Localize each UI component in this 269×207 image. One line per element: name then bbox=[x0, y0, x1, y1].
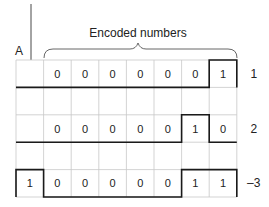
bit-cell: 0 bbox=[54, 123, 60, 135]
bit-cell: 0 bbox=[137, 177, 143, 189]
decoded-value: 1 bbox=[250, 67, 257, 81]
bit-cell: 0 bbox=[165, 177, 171, 189]
bit-cell: 1 bbox=[192, 123, 198, 135]
brace-label: Encoded numbers bbox=[89, 26, 186, 40]
bit-cell: 0 bbox=[137, 123, 143, 135]
bit-cell: 0 bbox=[220, 123, 226, 135]
bit-cell: 0 bbox=[192, 68, 198, 80]
bit-cell: 0 bbox=[54, 177, 60, 189]
bit-cell: 0 bbox=[165, 68, 171, 80]
bit-cell: 0 bbox=[82, 123, 88, 135]
bit-cell: 1 bbox=[192, 177, 198, 189]
bit-cell: 1 bbox=[220, 177, 226, 189]
grid-lines bbox=[16, 60, 237, 197]
bit-cell: 0 bbox=[54, 68, 60, 80]
bit-cell: 0 bbox=[165, 123, 171, 135]
bit-cell: 0 bbox=[110, 123, 116, 135]
memory-encoding-diagram: A Encoded numbers 0000001000001010000011… bbox=[0, 0, 269, 207]
pointer-label: A bbox=[15, 44, 23, 58]
decoded-value: 2 bbox=[250, 122, 257, 136]
bit-cell: 0 bbox=[82, 68, 88, 80]
bit-cell: 1 bbox=[220, 68, 226, 80]
bit-cell: 0 bbox=[110, 177, 116, 189]
curly-brace bbox=[44, 43, 237, 58]
decoded-value: –3 bbox=[247, 176, 261, 190]
bit-cell: 1 bbox=[27, 177, 33, 189]
bit-cell: 0 bbox=[137, 68, 143, 80]
bit-cell: 0 bbox=[82, 177, 88, 189]
row-decoded-values: 12–3 bbox=[247, 67, 261, 191]
bit-cell: 0 bbox=[110, 68, 116, 80]
